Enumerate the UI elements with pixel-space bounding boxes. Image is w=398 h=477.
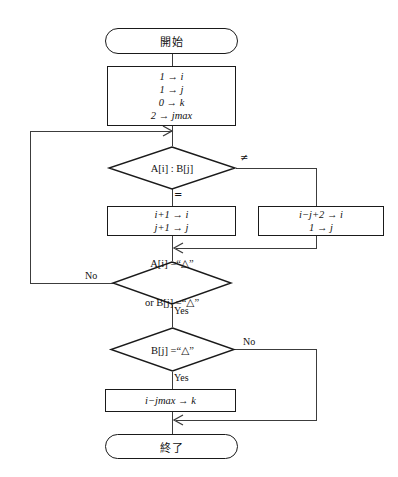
connector-advance-to-check1 <box>172 235 173 261</box>
process-advance-line-2: j+1 → j <box>155 221 189 234</box>
connector-loop-bottom-horizontal <box>30 283 114 284</box>
terminal-end-label: 終了 <box>160 439 184 455</box>
edge-label-check2-no: No <box>243 336 255 347</box>
process-init-line-2: 1 → j <box>160 83 184 96</box>
connector-check2-no-vertical <box>316 349 317 421</box>
connector-reset-back-horizontal <box>176 248 317 249</box>
connector-compare-equal-to-advance <box>172 189 173 206</box>
connector-check2-no-return-horizontal <box>176 420 317 421</box>
decision-check-triangle-either[interactable]: A[i] =“△” or B[j] =“△” <box>112 261 232 305</box>
arrowhead-loop-into-main <box>162 124 176 138</box>
terminal-start-label: 開始 <box>160 33 184 49</box>
edge-label-check2-yes: Yes <box>174 372 189 383</box>
connector-loop-top-horizontal <box>30 131 172 132</box>
flowchart-canvas: 開始 1 → i 1 → j 0 → k 2 → jmax A[i] : B[j… <box>0 0 398 477</box>
connector-compare-noteq-horizontal <box>236 168 317 169</box>
process-init-line-1: 1 → i <box>160 70 184 83</box>
decision-compare[interactable]: A[i] : B[j] <box>108 146 236 190</box>
terminal-end[interactable]: 終了 <box>105 434 238 459</box>
connector-start-to-init <box>172 53 173 66</box>
process-init-line-4: 2 → jmax <box>151 109 192 122</box>
connector-loop-left-vertical <box>30 131 31 283</box>
process-result[interactable]: i−jmax → k <box>105 389 236 412</box>
edge-label-check1-yes: Yes <box>174 305 189 316</box>
decision-check-triangle-b[interactable]: B[j] =“△” <box>110 327 235 372</box>
process-advance[interactable]: i+1 → i j+1 → j <box>107 206 236 236</box>
connector-check1-yes-to-check2 <box>172 305 173 327</box>
connector-check2-yes-to-result <box>172 372 173 389</box>
process-init-line-3: 0 → k <box>159 96 185 109</box>
process-reset-line-2: 1 → j <box>309 221 333 234</box>
edge-label-compare-equal: = <box>174 189 182 200</box>
process-reset[interactable]: i−j+2 → i 1 → j <box>258 206 384 236</box>
connector-result-to-end <box>172 412 173 434</box>
connector-check2-no-horizontal <box>235 349 317 350</box>
process-result-line-1: i−jmax → k <box>145 394 196 407</box>
edge-label-compare-not-equal: ≠ <box>240 152 248 163</box>
connector-compare-noteq-vertical <box>316 168 317 207</box>
process-advance-line-1: i+1 → i <box>155 208 189 221</box>
edge-label-check1-no: No <box>85 270 97 281</box>
process-reset-line-1: i−j+2 → i <box>299 208 343 221</box>
terminal-start[interactable]: 開始 <box>105 28 238 54</box>
connector-reset-down <box>316 235 317 248</box>
process-init[interactable]: 1 → i 1 → j 0 → k 2 → jmax <box>107 66 236 126</box>
